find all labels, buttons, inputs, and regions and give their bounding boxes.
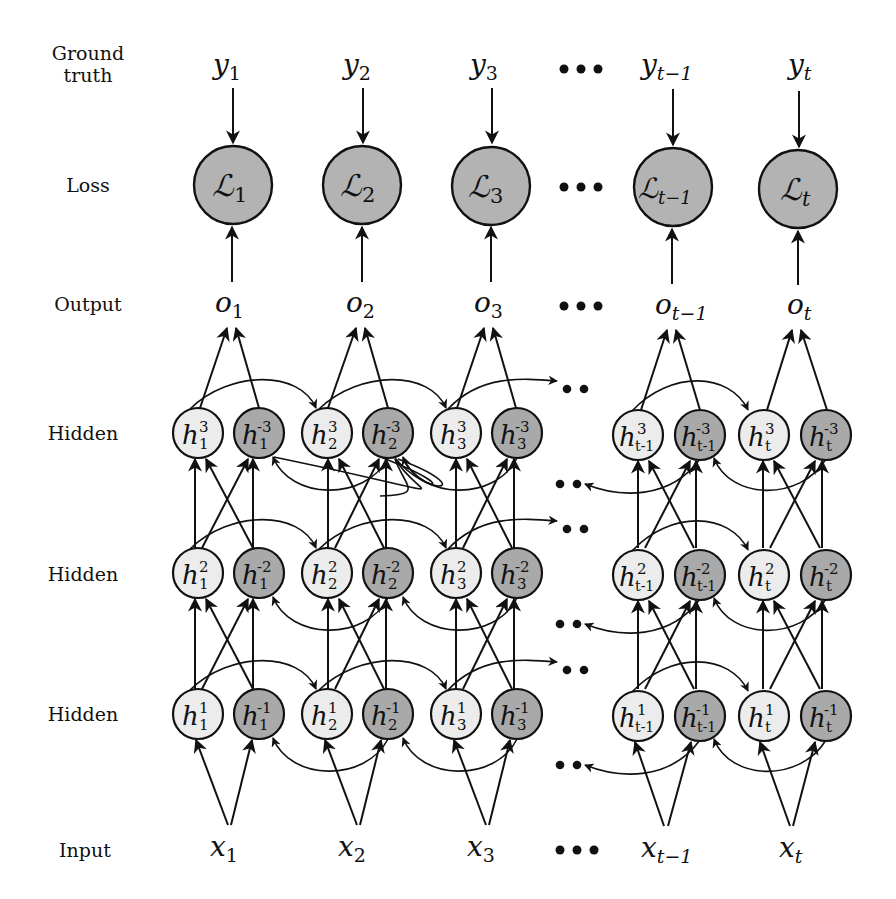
svg-text:-1: -1 bbox=[386, 699, 401, 717]
svg-text:t: t bbox=[765, 718, 771, 736]
svg-text:1: 1 bbox=[637, 701, 647, 719]
svg-text:h: h bbox=[748, 703, 765, 733]
ellipsis-ground-truth bbox=[560, 65, 603, 74]
node-h-fwd-1-t: h1t bbox=[739, 691, 789, 741]
label-loss: Loss bbox=[66, 174, 110, 196]
svg-text:1: 1 bbox=[328, 699, 338, 717]
node-h-fwd-3-t-minus-1: h3t-1 bbox=[613, 410, 663, 460]
loss-node-1: ℒ1 bbox=[194, 146, 272, 224]
output-row: o1 o2 o3 ot−1 ot bbox=[215, 286, 812, 324]
svg-text:h: h bbox=[182, 420, 199, 450]
svg-text:3: 3 bbox=[517, 575, 527, 593]
svg-text:-3: -3 bbox=[824, 420, 839, 438]
node-h-fwd-1-1: h11 bbox=[173, 689, 223, 739]
y-3-label: y3 bbox=[468, 48, 498, 84]
ellipsis-loss bbox=[560, 183, 603, 192]
hidden-layer-1: h11 h-11 h12 h-12 h13 h-13 h1t-1 h-1t-1 … bbox=[173, 689, 851, 741]
ground-truth-row: y1 y2 y3 yt−1 yt bbox=[211, 48, 812, 84]
node-h-fwd-2-2: h22 bbox=[302, 548, 352, 598]
svg-text:h: h bbox=[748, 562, 765, 592]
node-h-bwd-2-t: h-2t bbox=[801, 550, 851, 600]
loss-node-t-minus-1: ℒt−1 bbox=[634, 148, 712, 226]
svg-text:3: 3 bbox=[199, 418, 209, 436]
y-1-label: y1 bbox=[211, 48, 241, 84]
x-t-minus-1-label: xt−1 bbox=[641, 831, 692, 867]
svg-text:3: 3 bbox=[637, 420, 647, 438]
svg-text:3: 3 bbox=[457, 418, 467, 436]
node-h-bwd-1-t-minus-1: h-1t-1 bbox=[675, 691, 725, 741]
svg-text:1: 1 bbox=[199, 716, 209, 734]
svg-text:1: 1 bbox=[259, 575, 269, 593]
loss-node-t: ℒt bbox=[759, 150, 837, 228]
svg-text:t-1: t-1 bbox=[697, 578, 716, 594]
node-h-bwd-3-3: h-33 bbox=[492, 408, 542, 458]
svg-text:3: 3 bbox=[457, 575, 467, 593]
svg-text:1: 1 bbox=[457, 699, 467, 717]
svg-text:-2: -2 bbox=[257, 558, 272, 576]
svg-text:h: h bbox=[182, 560, 199, 590]
label-input: Input bbox=[59, 839, 111, 861]
svg-text:t-1: t-1 bbox=[697, 719, 716, 735]
loss-node-2: ℒ2 bbox=[323, 146, 401, 224]
svg-text:h: h bbox=[440, 420, 457, 450]
svg-text:1: 1 bbox=[765, 701, 775, 719]
o-1-label: o1 bbox=[215, 286, 244, 322]
node-h-bwd-2-3: h-23 bbox=[492, 548, 542, 598]
svg-text:1: 1 bbox=[259, 435, 269, 453]
svg-text:-1: -1 bbox=[696, 701, 711, 719]
node-h-bwd-1-1: h-11 bbox=[234, 689, 284, 739]
svg-text:t: t bbox=[765, 577, 771, 595]
svg-text:t: t bbox=[826, 718, 832, 736]
svg-text:2: 2 bbox=[328, 435, 338, 453]
svg-text:-3: -3 bbox=[386, 418, 401, 436]
bidirectional-rnn-diagram: Ground truth Loss Output Hidden Hidden H… bbox=[0, 0, 896, 899]
svg-text:t-1: t-1 bbox=[697, 438, 716, 454]
hidden-layer-2: h21 h-21 h22 h-22 h23 h-23 h2t-1 h-2t-1 … bbox=[173, 548, 851, 600]
svg-text:-2: -2 bbox=[386, 558, 401, 576]
svg-text:h: h bbox=[440, 701, 457, 731]
ellipsis-output bbox=[560, 302, 603, 311]
svg-text:3: 3 bbox=[328, 418, 338, 436]
svg-text:1: 1 bbox=[199, 575, 209, 593]
svg-text:t-1: t-1 bbox=[635, 438, 654, 454]
node-h-fwd-2-t-minus-1: h2t-1 bbox=[613, 550, 663, 600]
node-h-bwd-1-t: h-1t bbox=[801, 691, 851, 741]
svg-text:2: 2 bbox=[328, 558, 338, 576]
o-3-label: o3 bbox=[474, 286, 503, 322]
svg-text:1: 1 bbox=[199, 435, 209, 453]
svg-text:3: 3 bbox=[765, 420, 775, 438]
svg-text:3: 3 bbox=[517, 716, 527, 734]
o-t-label: ot bbox=[787, 288, 812, 324]
svg-text:t-1: t-1 bbox=[635, 719, 654, 735]
label-hidden-3: Hidden bbox=[48, 422, 118, 444]
svg-text:-1: -1 bbox=[515, 699, 530, 717]
node-h-bwd-3-2: h-32 bbox=[363, 408, 413, 458]
node-h-fwd-3-3: h33 bbox=[431, 408, 481, 458]
label-hidden-1: Hidden bbox=[48, 703, 118, 725]
svg-text:2: 2 bbox=[765, 560, 775, 578]
node-h-fwd-2-1: h21 bbox=[173, 548, 223, 598]
node-h-bwd-3-t: h-3t bbox=[801, 410, 851, 460]
node-h-fwd-2-t: h2t bbox=[739, 550, 789, 600]
o-2-label: o2 bbox=[346, 286, 375, 322]
loss-row: ℒ1 ℒ2 ℒ3 ℒt−1 ℒt bbox=[194, 146, 837, 228]
svg-text:3: 3 bbox=[517, 435, 527, 453]
y-t-minus-1-label: yt−1 bbox=[639, 48, 692, 84]
label-ground-truth-line1: Ground bbox=[52, 42, 124, 64]
x-2-label: x2 bbox=[338, 830, 366, 866]
row-labels: Ground truth Loss Output Hidden Hidden H… bbox=[48, 42, 124, 861]
node-h-fwd-3-t: h3t bbox=[739, 410, 789, 460]
input-row: x1 x2 x3 xt−1 xt bbox=[210, 830, 803, 867]
svg-text:h: h bbox=[440, 560, 457, 590]
loss-node-3: ℒ3 bbox=[452, 147, 530, 225]
svg-text:2: 2 bbox=[388, 435, 398, 453]
svg-text:h: h bbox=[619, 562, 636, 592]
node-h-bwd-3-1: h-31 bbox=[234, 408, 284, 458]
svg-text:2: 2 bbox=[457, 558, 467, 576]
node-h-fwd-2-3: h23 bbox=[431, 548, 481, 598]
svg-text:3: 3 bbox=[457, 716, 467, 734]
svg-text:h: h bbox=[182, 701, 199, 731]
svg-text:2: 2 bbox=[328, 716, 338, 734]
x-1-label: x1 bbox=[210, 830, 238, 866]
hidden-layer-3: h31 h-31 h32 h-32 h33 h-33 h3t-1 h-3t-1 … bbox=[173, 408, 851, 460]
